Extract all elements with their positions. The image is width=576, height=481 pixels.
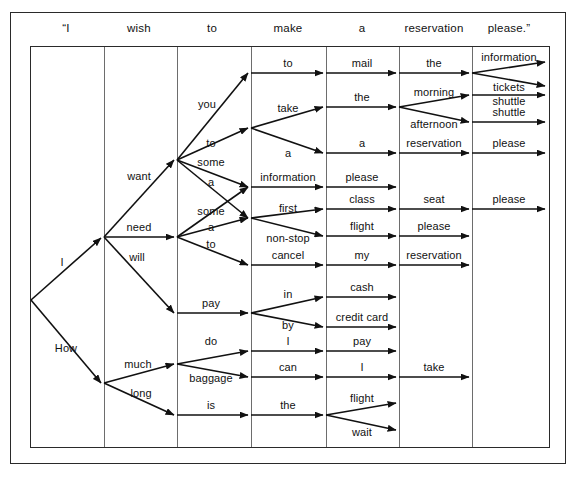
edge-label: cancel [272,249,304,261]
edge-label: baggage [189,372,233,384]
edge-label: pay [202,297,220,309]
edge-label: want [127,170,151,182]
edge-label: take [423,361,444,373]
edge-label: shuttle [492,106,525,118]
edge-label: to [206,238,215,250]
edge-line-group [31,62,545,430]
edge-label: please [345,171,378,183]
edge-label: I [60,256,63,268]
edge-label: seat [423,193,444,205]
edge-label: reservation [406,249,462,261]
edge-label: please [417,220,450,232]
edge-label: I [286,335,289,347]
lattice-edge-i [31,238,101,300]
edge-label: can [279,361,297,373]
edge-label: the [354,91,370,103]
edge-label: I [360,361,363,373]
edge-label: my [355,249,370,261]
lattice-edge-do [177,351,248,364]
edge-label: take [277,102,298,114]
edge-label: a [359,137,365,149]
edge-label: by [282,319,294,331]
edge-label: flight [350,392,374,404]
edge-label: How [55,342,77,354]
edge-label: you [198,98,216,110]
edge-label: some [197,205,224,217]
edge-label: need [127,221,152,233]
edge-label: wait [352,426,372,438]
edge-label: non-stop [266,232,310,244]
edge-label: much [124,358,151,370]
edge-label: information [481,51,537,63]
edge-label: do [205,335,217,347]
edge-label: to [206,137,215,149]
edge-label: a [208,221,214,233]
edge-label: the [280,399,296,411]
edge-label: will [129,251,145,263]
edge-label: credit card [336,311,388,323]
edge-label: long [130,387,151,399]
edge-label: mail [352,57,373,69]
edge-label: information [260,171,316,183]
edge-label: reservation [406,137,462,149]
edge-label: morning [414,86,454,98]
edge-label: cash [350,281,374,293]
edge-label: class [349,193,375,205]
edge-label: flight [350,220,374,232]
lattice-edge-flight [326,403,396,415]
edge-label: a [208,176,214,188]
lattice-edge-will [104,237,174,313]
lattice-edge-information [472,62,545,73]
edge-label: pay [353,335,371,347]
edge-label: first [279,202,297,214]
edge-label: please [492,193,525,205]
edge-label: please [492,137,525,149]
edge-label: the [426,57,442,69]
edge-label: to [283,57,292,69]
edge-label: is [207,399,215,411]
edge-label: some [197,156,224,168]
edge-label: in [284,288,293,300]
edge-label: afternoon [410,118,457,130]
edge-label: a [285,147,291,159]
edge-label: tickets [493,81,525,93]
